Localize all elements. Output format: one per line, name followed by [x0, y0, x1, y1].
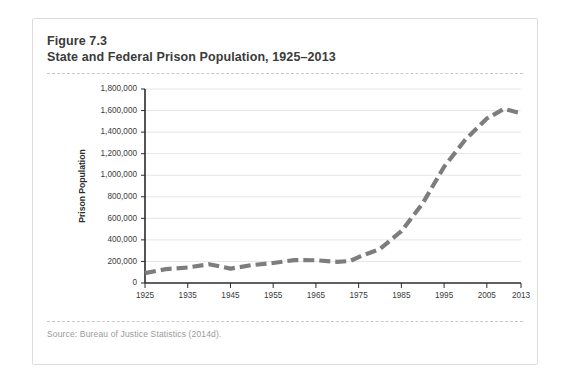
source-note: Source: Bureau of Justice Statistics (20…: [47, 329, 221, 339]
x-tick-label: 1955: [264, 291, 283, 300]
x-tick-label: 1935: [179, 291, 198, 300]
y-axis-ticks: 0200,000400,000600,000800,0001,000,0001,…: [101, 84, 145, 287]
divider-bottom: [47, 321, 523, 322]
y-tick-label: 0: [132, 278, 137, 287]
data-series-line: [145, 109, 521, 273]
x-tick-label: 1995: [435, 291, 454, 300]
figure-card: Figure 7.3 State and Federal Prison Popu…: [32, 18, 538, 365]
grid-lines: [145, 89, 521, 261]
x-axis-ticks: 1925193519451955196519751985199520052013: [136, 283, 531, 300]
y-tick-label: 1,400,000: [101, 127, 138, 136]
prison-population-line-chart: 0200,000400,000600,000800,0001,000,0001,…: [33, 77, 537, 321]
x-tick-label: 2005: [478, 291, 497, 300]
y-tick-label: 1,800,000: [101, 84, 138, 93]
figure-number: Figure 7.3: [47, 33, 336, 49]
x-tick-label: 1985: [392, 291, 411, 300]
y-tick-label: 200,000: [107, 257, 137, 266]
y-tick-label: 1,600,000: [101, 106, 138, 115]
divider-top: [47, 73, 523, 74]
x-tick-label: 1925: [136, 291, 155, 300]
y-tick-label: 600,000: [107, 214, 137, 223]
x-tick-label: 2013: [512, 291, 531, 300]
chart-plot-area: 0200,000400,000600,000800,0001,000,0001,…: [33, 77, 537, 321]
x-tick-label: 1965: [307, 291, 326, 300]
y-axis-title: Prison Population: [77, 149, 87, 223]
y-tick-label: 1,200,000: [101, 149, 138, 158]
y-tick-label: 400,000: [107, 235, 137, 244]
y-tick-label: 800,000: [107, 192, 137, 201]
y-tick-label: 1,000,000: [101, 170, 138, 179]
x-tick-label: 1945: [221, 291, 240, 300]
x-tick-label: 1975: [350, 291, 369, 300]
figure-title: State and Federal Prison Population, 192…: [47, 49, 336, 65]
figure-heading: Figure 7.3 State and Federal Prison Popu…: [47, 33, 336, 65]
